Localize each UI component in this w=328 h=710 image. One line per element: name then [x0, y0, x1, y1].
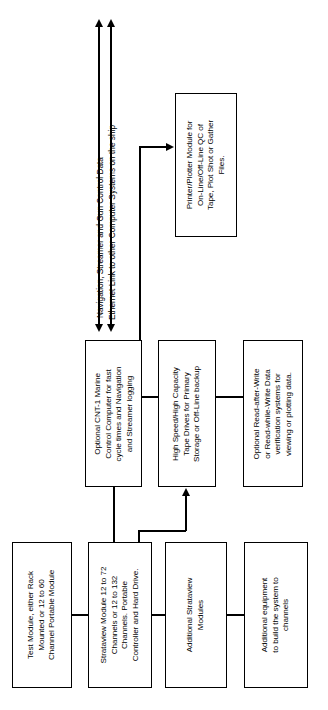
nav-arrow-head-bottom: [95, 324, 103, 332]
box-strataview-module[interactable]: Strataview Module 12 to 72 Channels or 1…: [88, 542, 152, 688]
trunk-strataview-to-tapedrives-horizontal: [138, 530, 186, 532]
box-additional-equipment[interactable]: Additional equipment to build the system…: [244, 542, 308, 688]
printer-connector-horizontal: [139, 146, 167, 148]
box-tape-drives[interactable]: High Speed/High Capacity Tape Drives for…: [158, 340, 216, 487]
nav-arrow-head-top: [95, 19, 103, 27]
box-printer-plotter-label: Printer/Plotter Module for On-Line/Off-L…: [185, 96, 227, 234]
connector-tapedrives-to-verification: [215, 396, 244, 398]
ethernet-arrow-head-top: [107, 19, 115, 27]
box-additional-equipment-label: Additional equipment to build the system…: [260, 545, 292, 685]
box-strataview-module-label: Strataview Module 12 to 72 Channels or 1…: [99, 545, 141, 685]
box-test-module[interactable]: Test Module, either Rack Mounted or 12 t…: [12, 542, 72, 688]
box-tape-drives-label: High Speed/High Capacity Tape Drives for…: [171, 343, 203, 485]
trunk-tapedrives-riser: [185, 496, 187, 531]
trunk-cnt1-to-strataview: [113, 486, 115, 542]
box-data-verification[interactable]: Optional Read-after-Write or Read-while-…: [243, 340, 303, 487]
box-printer-plotter[interactable]: Printer/Plotter Module for On-Line/Off-L…: [175, 93, 237, 237]
box-additional-strataview-modules[interactable]: Additional Strataview Modules: [165, 542, 227, 688]
printer-connector-vertical: [139, 146, 141, 340]
nav-arrow-label: Navigation, Streamer and Gun Control Dat…: [96, 157, 105, 318]
connector-cnt1-to-tapedrives: [141, 396, 159, 398]
ethernet-arrow-label: Ethernet Link to other Computer Systems …: [108, 125, 117, 320]
diagram-canvas: Navigation, Streamer and Gun Control Dat…: [0, 0, 328, 710]
ethernet-arrow-head-bottom: [107, 324, 115, 332]
connector-strataview-to-additional-modules: [151, 614, 166, 616]
connector-testmodule-to-strataview: [71, 614, 89, 616]
box-cnt-1-control-computer[interactable]: Optional CNT-1 Marine Control Computer f…: [85, 340, 142, 487]
box-data-verification-label: Optional Read-after-Write or Read-while-…: [252, 343, 294, 485]
box-test-module-label: Test Module, either Rack Mounted or 12 t…: [26, 545, 58, 685]
trunk-tapedrives-arrowhead: [182, 488, 190, 496]
box-cnt-1-control-computer-label: Optional CNT-1 Marine Control Computer f…: [92, 343, 134, 485]
connector-additional-modules-to-equipment: [226, 614, 245, 616]
trunk-strataview-to-tapedrives-vertical: [138, 530, 140, 542]
printer-connector-arrowhead: [166, 143, 174, 151]
box-additional-strataview-modules-label: Additional Strataview Modules: [185, 545, 206, 685]
